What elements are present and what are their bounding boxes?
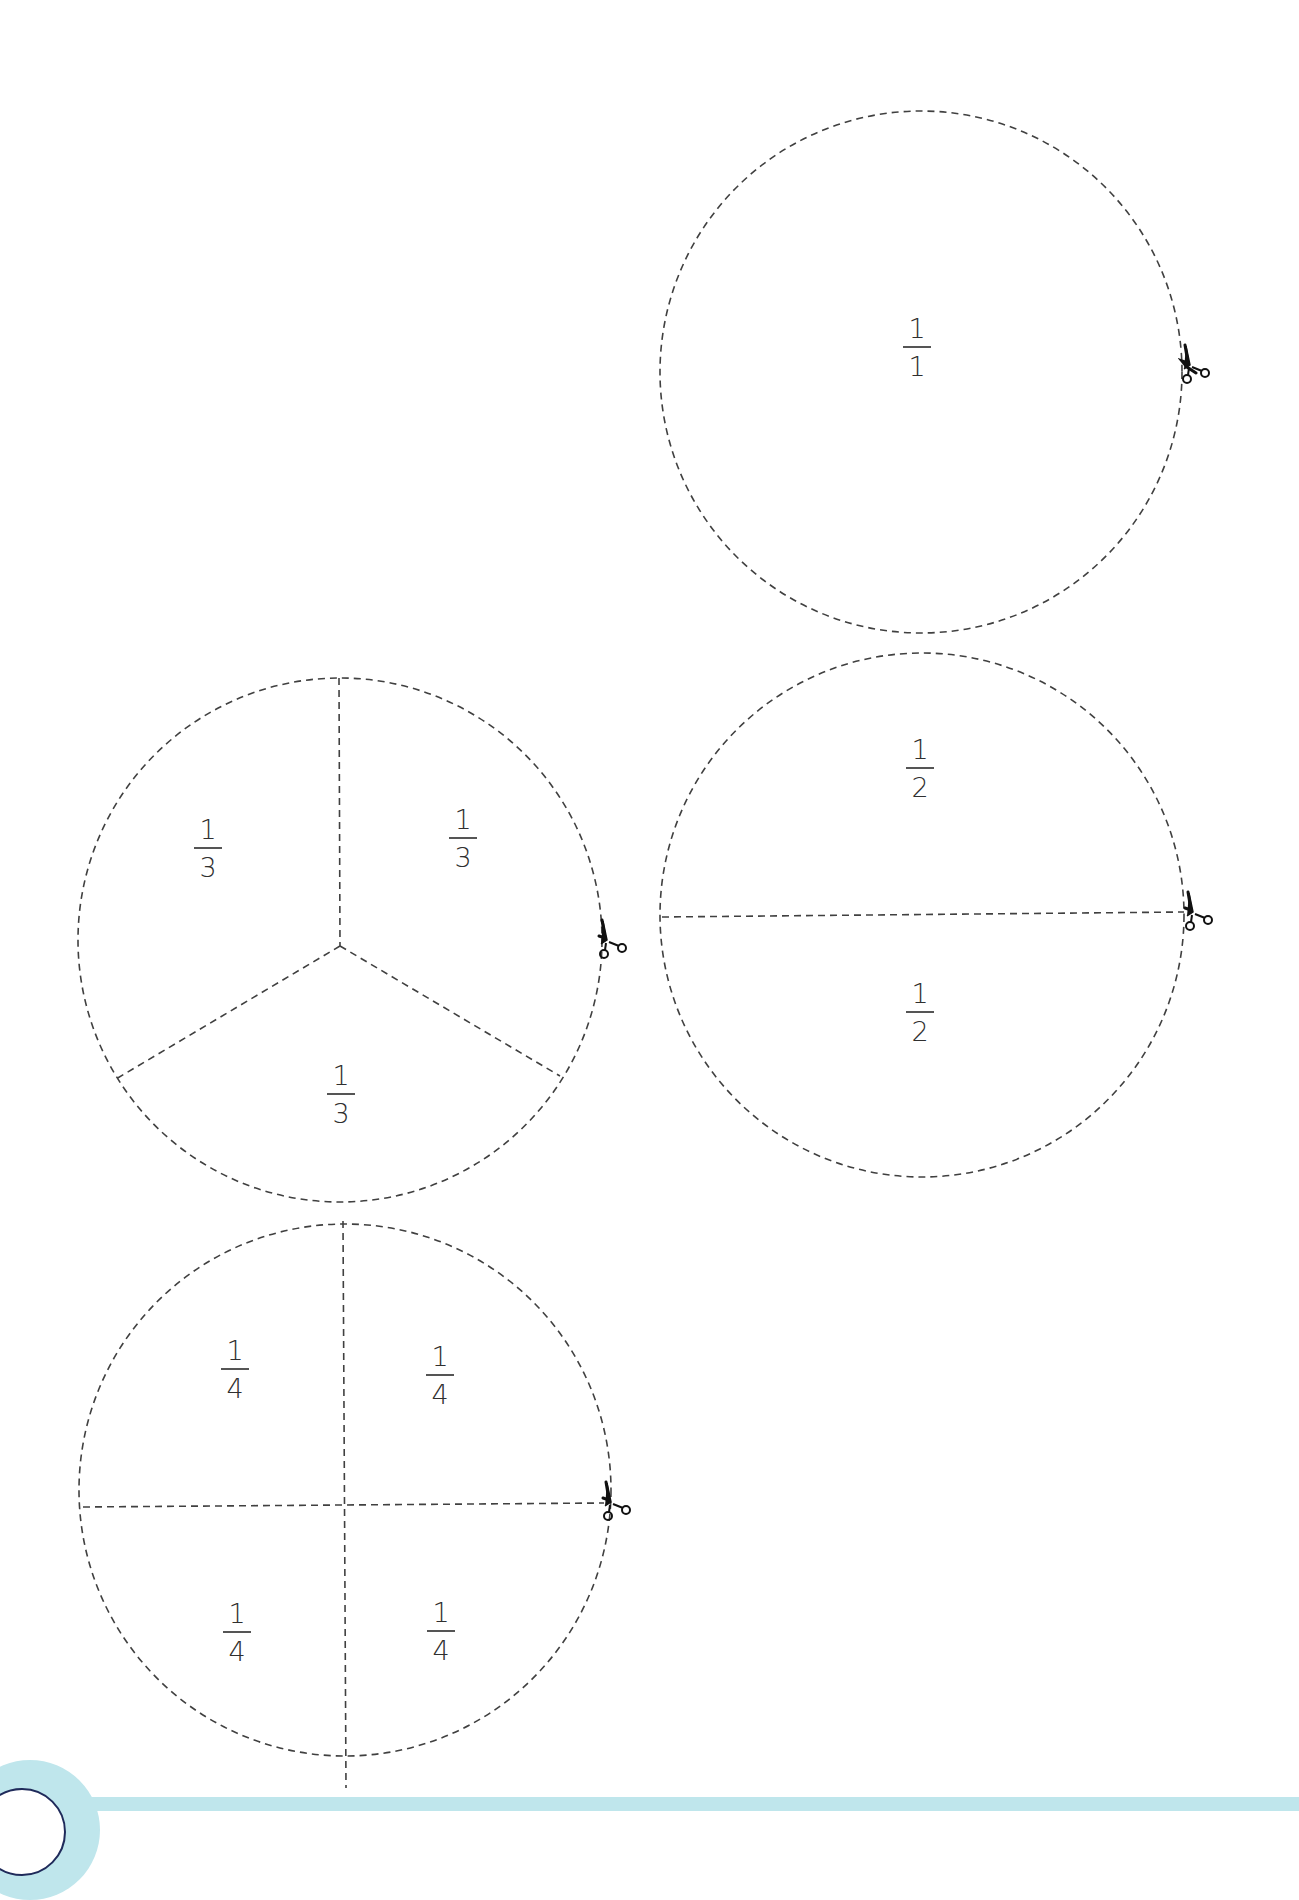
cut-line-divider bbox=[340, 946, 560, 1076]
cut-line-divider bbox=[343, 1221, 346, 1788]
denominator: 3 bbox=[186, 853, 230, 883]
footer-band bbox=[0, 1797, 1299, 1811]
fraction-bar bbox=[427, 1630, 455, 1632]
numerator: 1 bbox=[186, 815, 230, 845]
numerator: 1 bbox=[215, 1599, 259, 1629]
denominator: 4 bbox=[213, 1374, 257, 1404]
circle-quarters bbox=[79, 1221, 611, 1788]
cut-line-divider bbox=[339, 678, 340, 946]
fraction-label: 1 4 bbox=[215, 1599, 259, 1667]
denominator: 4 bbox=[419, 1636, 463, 1666]
fraction-bar bbox=[194, 847, 222, 849]
numerator: 1 bbox=[419, 1598, 463, 1628]
fraction-label: 1 3 bbox=[441, 805, 485, 873]
denominator: 2 bbox=[898, 773, 942, 803]
fraction-label: 1 4 bbox=[418, 1342, 462, 1410]
fraction-label: 1 4 bbox=[419, 1598, 463, 1666]
fraction-bar bbox=[903, 346, 931, 348]
numerator: 1 bbox=[898, 979, 942, 1009]
denominator: 1 bbox=[895, 352, 939, 382]
denominator: 3 bbox=[319, 1099, 363, 1129]
cut-line-divider bbox=[116, 946, 340, 1079]
scissors-icon bbox=[595, 918, 629, 962]
circle-halves bbox=[660, 653, 1184, 1177]
denominator: 2 bbox=[898, 1017, 942, 1047]
fraction-label: 1 1 bbox=[895, 314, 939, 382]
cut-line-circle bbox=[660, 653, 1184, 1177]
fraction-label: 1 3 bbox=[319, 1061, 363, 1129]
numerator: 1 bbox=[213, 1336, 257, 1366]
numerator: 1 bbox=[418, 1342, 462, 1372]
scissors-icon bbox=[599, 1480, 633, 1524]
fraction-label: 1 2 bbox=[898, 979, 942, 1047]
denominator: 3 bbox=[441, 843, 485, 873]
scissors-icon bbox=[1178, 343, 1212, 387]
cut-line-divider bbox=[662, 912, 1184, 917]
cut-line-divider bbox=[83, 1503, 604, 1507]
numerator: 1 bbox=[319, 1061, 363, 1091]
fraction-label: 1 3 bbox=[186, 815, 230, 883]
fraction-bar bbox=[221, 1368, 249, 1370]
fraction-bar bbox=[906, 767, 934, 769]
fraction-bar bbox=[223, 1631, 251, 1633]
fraction-label: 1 2 bbox=[898, 735, 942, 803]
numerator: 1 bbox=[895, 314, 939, 344]
numerator: 1 bbox=[441, 805, 485, 835]
fraction-bar bbox=[449, 837, 477, 839]
fraction-label: 1 4 bbox=[213, 1336, 257, 1404]
fraction-bar bbox=[327, 1093, 355, 1095]
scissors-icon bbox=[1181, 890, 1215, 934]
denominator: 4 bbox=[418, 1380, 462, 1410]
numerator: 1 bbox=[898, 735, 942, 765]
fraction-bar bbox=[906, 1011, 934, 1013]
fraction-bar bbox=[426, 1374, 454, 1376]
denominator: 4 bbox=[215, 1637, 259, 1667]
